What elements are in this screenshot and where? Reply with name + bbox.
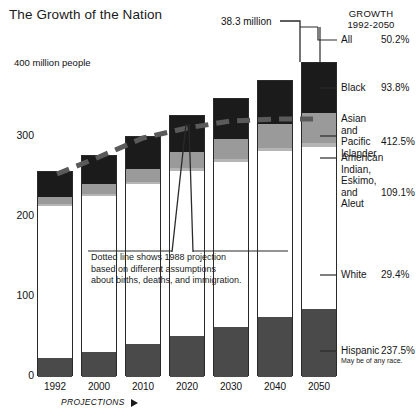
- legend-header-title: GROWTH: [329, 8, 413, 19]
- projection-note-line-3: about births, deaths, and immigration.: [91, 275, 287, 287]
- legend-item-all-label: All: [341, 34, 352, 46]
- legend-item-hispanic-label: Hispanic: [341, 345, 379, 357]
- legend-item-hispanic-pct: 237.5%: [381, 345, 415, 356]
- legend-item-american-indian-pct: 109.1%: [381, 187, 415, 198]
- legend-item-all-pct: 50.2%: [381, 34, 409, 45]
- x-tick-2040: 2040: [251, 381, 299, 392]
- legend-hispanic-footnote: May be of any race.: [341, 357, 402, 364]
- projection-note-line-2: based on different assumptions: [91, 264, 287, 276]
- callout-38-3-million: 38.3 million: [221, 16, 272, 27]
- x-tick-2000: 2000: [75, 381, 123, 392]
- legend-header-range: 1992-2050: [329, 19, 413, 30]
- projections-arrow-icon: [131, 399, 138, 407]
- callout-leader-38-3: [280, 21, 300, 62]
- legend-item-white-pct: 29.4%: [381, 269, 409, 280]
- legend-header: GROWTH 1992-2050: [329, 8, 413, 30]
- legend-item-black-pct: 93.8%: [381, 82, 409, 93]
- legend-item-asian-pacific-pct: 412.5%: [381, 136, 415, 147]
- x-tick-2050: 2050: [295, 381, 343, 392]
- dotted-projection-line: [57, 119, 319, 174]
- note-leader-line-2: [189, 124, 193, 252]
- legend-item-white-label: White: [341, 269, 367, 281]
- projection-note: Dotted line shows 1988 projection based …: [91, 252, 287, 287]
- legend-item-american-indian-label: AmericanIndian,Eskimo, andAleut: [341, 152, 387, 210]
- legend-item-black-label: Black: [341, 82, 365, 94]
- projections-label: PROJECTIONS: [61, 397, 125, 407]
- x-tick-2030: 2030: [207, 381, 255, 392]
- note-leader-line: [172, 124, 186, 252]
- x-tick-1992: 1992: [31, 381, 79, 392]
- x-tick-2010: 2010: [119, 381, 167, 392]
- x-tick-2020: 2020: [163, 381, 211, 392]
- projection-note-line-1: Dotted line shows 1988 projection: [91, 252, 287, 264]
